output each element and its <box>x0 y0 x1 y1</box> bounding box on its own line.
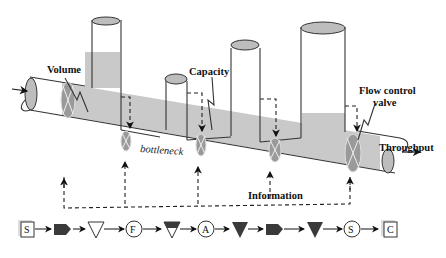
supply-chain-pipe-diagram: Volume Capacity Flow control valve bottl… <box>0 0 446 258</box>
svg-text:F: F <box>130 224 136 235</box>
valve-4 <box>269 138 281 162</box>
volume-label: Volume <box>47 64 81 75</box>
flow-control-valve-label: Flow control <box>359 85 416 96</box>
svg-text:C: C <box>387 224 394 235</box>
valve-3 <box>196 134 206 156</box>
node-circle-f: F <box>126 221 142 237</box>
node-circle-s: S <box>344 221 360 237</box>
node-square-c: C <box>381 220 397 237</box>
capacity-label: Capacity <box>189 66 230 77</box>
triangle-half-filled <box>164 222 180 238</box>
triangle-filled-2 <box>307 222 323 238</box>
information-loop <box>64 162 350 208</box>
svg-text:A: A <box>202 224 210 235</box>
block-arrow-1 <box>54 224 71 235</box>
flow-control-valve-label-2: valve <box>373 97 397 108</box>
node-circle-a: A <box>198 221 214 237</box>
triangle-open <box>88 222 104 238</box>
block-arrow-2 <box>266 224 283 235</box>
inlet-cap <box>25 78 37 110</box>
svg-text:S: S <box>348 224 354 235</box>
valve-2 <box>121 131 131 151</box>
information-label: Information <box>248 190 303 201</box>
triangle-filled-1 <box>232 222 248 238</box>
svg-text:S: S <box>24 224 30 235</box>
bottleneck-label: bottleneck <box>140 143 184 157</box>
valve-1 <box>61 82 75 118</box>
node-square-s: S <box>18 220 34 237</box>
flow-sequence: S F A S <box>18 220 397 238</box>
throughput-label: Throughput <box>379 142 434 153</box>
